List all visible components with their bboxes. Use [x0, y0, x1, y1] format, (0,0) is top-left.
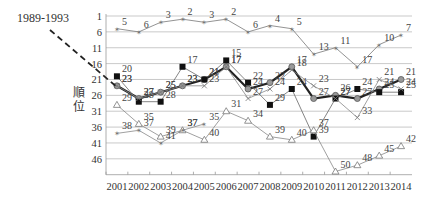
circle-marker-icon: [398, 76, 404, 82]
data-label: 13: [319, 41, 329, 52]
data-label: 2: [231, 6, 236, 17]
triangle-marker-icon: [310, 127, 317, 133]
x-tick-label: 2001: [106, 181, 127, 192]
circle-marker-icon: [267, 80, 273, 86]
star-marker-icon: ✶: [201, 121, 207, 129]
star-marker-icon: ✶: [398, 32, 404, 40]
data-label: 38: [122, 120, 132, 131]
data-label: 40: [209, 127, 219, 138]
x-marker-icon: [355, 115, 360, 120]
data-label: 6: [253, 19, 258, 30]
square-marker-icon: [289, 86, 295, 92]
y-tick-label: 31: [92, 106, 103, 117]
star-marker-icon: ✶: [114, 26, 120, 34]
star-marker-icon: ✶: [158, 19, 164, 27]
data-label: 48: [362, 152, 372, 163]
circle-marker-icon: [311, 96, 317, 102]
y-tick-label: 16: [92, 59, 103, 70]
data-label: 25: [166, 79, 176, 90]
data-label: 27: [319, 86, 329, 97]
y-tick-label: 21: [92, 74, 103, 85]
star-marker-icon: ✶: [223, 16, 229, 24]
triangle-marker-icon: [223, 108, 230, 114]
data-label: 24: [275, 76, 285, 87]
x-tick-label: 2009: [281, 181, 302, 192]
square-marker-icon: [136, 99, 142, 105]
star-marker-icon: ✶: [289, 26, 295, 34]
y-tick-label: 36: [92, 122, 103, 133]
data-label: 4: [275, 13, 280, 24]
x-marker-icon: [311, 83, 316, 88]
y-axis-ticks: 161116212631364146: [92, 11, 103, 165]
data-label: 10: [384, 32, 394, 43]
y-tick-label: 41: [92, 138, 103, 149]
data-label: 17: [362, 54, 372, 65]
circle-marker-icon: [289, 64, 295, 70]
y-tick-label: 6: [97, 27, 102, 38]
star-marker-icon: ✶: [136, 29, 142, 37]
data-label: 27: [253, 86, 263, 97]
star-marker-icon: ✶: [114, 130, 120, 138]
circle-marker-icon: [245, 86, 251, 92]
data-label: 42: [406, 133, 416, 144]
data-label: 7: [406, 22, 411, 33]
star-marker-icon: ✶: [376, 42, 382, 50]
data-label: 5: [122, 16, 127, 27]
star-marker-icon: ✶: [267, 23, 273, 31]
series-layer: ✶5✶6✶3✶2✶3✶2✶6✶4✶5✶13✶11✶17✶10✶723272523…: [113, 6, 416, 174]
data-label: 33: [362, 105, 372, 116]
x-tick-label: 2014: [391, 181, 413, 192]
x-tick-label: 2005: [194, 181, 215, 192]
triangle-marker-icon: [376, 152, 383, 158]
data-label: 17: [188, 54, 198, 65]
data-label: 27: [144, 86, 154, 97]
square-marker-icon: [245, 80, 251, 86]
star-marker-icon: ✶: [201, 19, 207, 27]
star-marker-icon: ✶: [311, 51, 317, 59]
data-label: 18: [297, 57, 307, 68]
triangle-marker-icon: [354, 162, 361, 168]
triangle-marker-icon: [113, 101, 120, 107]
data-label: 37: [319, 117, 329, 128]
data-label: 37: [144, 117, 154, 128]
circle-marker-icon: [354, 96, 360, 102]
triangle-marker-icon: [398, 143, 405, 149]
x-tick-label: 2012: [347, 181, 368, 192]
y-tick-label: 11: [92, 43, 102, 54]
x-tick-label: 2002: [128, 181, 149, 192]
x-tick-label: 2013: [369, 181, 390, 192]
data-label: 5: [297, 16, 302, 27]
data-label: 17: [231, 54, 241, 65]
data-label: 3: [209, 9, 214, 20]
data-label: 25: [384, 79, 394, 90]
square-marker-icon: [114, 73, 120, 79]
data-label: 45: [384, 143, 394, 154]
line-chart: 161116212631364146 200120022003200420052…: [0, 0, 439, 198]
square-marker-icon: [180, 64, 186, 70]
x-tick-label: 2010: [303, 181, 324, 192]
x-tick-label: 2003: [150, 181, 171, 192]
data-label: 39: [275, 124, 285, 135]
data-label: 23: [209, 73, 219, 84]
data-label: 22: [253, 70, 263, 81]
data-label: 37: [188, 117, 198, 128]
x-tick-label: 2008: [259, 181, 280, 192]
data-label: 34: [253, 108, 263, 119]
data-label: 29: [122, 92, 132, 103]
star-marker-icon: ✶: [245, 29, 251, 37]
data-label: 27: [341, 86, 351, 97]
square-marker-icon: [354, 86, 360, 92]
y-axis-label: 順: [73, 86, 85, 100]
y-tick-label: 46: [92, 154, 103, 165]
annotation-dashed-line: [50, 30, 118, 88]
x-tick-label: 2006: [216, 181, 237, 192]
y-tick-label: 26: [92, 90, 103, 101]
star-marker-icon: ✶: [136, 127, 142, 135]
star-marker-icon: ✶: [158, 140, 164, 148]
data-label: 23: [319, 73, 329, 84]
star-marker-icon: ✶: [180, 127, 186, 135]
y-tick-label: 1: [97, 11, 102, 22]
x-tick-label: 2011: [325, 181, 346, 192]
data-label: 23: [188, 73, 198, 84]
data-label: 24: [362, 76, 372, 87]
